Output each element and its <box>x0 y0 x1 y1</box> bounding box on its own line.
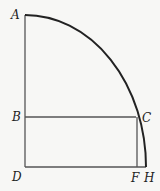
label-d: D <box>11 170 22 184</box>
arc-ah <box>25 15 146 167</box>
label-a: A <box>10 8 20 22</box>
label-f: F <box>130 171 140 185</box>
label-c: C <box>142 111 151 125</box>
diagram-canvas: A B C D F H <box>0 0 160 191</box>
label-h: H <box>143 171 155 185</box>
label-b: B <box>11 110 21 124</box>
